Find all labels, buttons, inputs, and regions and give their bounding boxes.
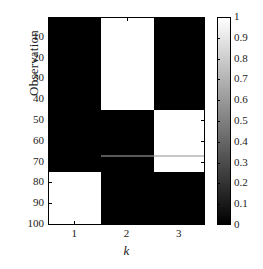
heatmap-block bbox=[154, 157, 205, 172]
heatmap-block bbox=[154, 110, 205, 156]
x-tick-mark bbox=[179, 221, 180, 225]
colorbar-tick-mark bbox=[217, 163, 220, 164]
y-tick-mark bbox=[48, 99, 52, 100]
colorbar-tick-mark bbox=[217, 38, 220, 39]
x-tick-label: 1 bbox=[59, 227, 89, 239]
y-tick-mark bbox=[48, 78, 52, 79]
y-tick-mark bbox=[48, 162, 52, 163]
y-tick-mark bbox=[48, 58, 52, 59]
x-tick-mark-top bbox=[127, 17, 128, 21]
colorbar-tick-mark bbox=[217, 121, 220, 122]
y-tick-mark-right bbox=[201, 120, 205, 121]
y-tick-mark bbox=[48, 224, 52, 225]
y-tick-label: 100 bbox=[4, 217, 44, 229]
colorbar-tick-label: 0 bbox=[234, 218, 240, 230]
y-tick-label: 90 bbox=[4, 196, 44, 208]
heatmap-block bbox=[101, 18, 153, 110]
x-tick-mark bbox=[74, 221, 75, 225]
y-tick-label: 30 bbox=[4, 71, 44, 83]
y-tick-mark-right bbox=[201, 58, 205, 59]
heatmap-axes[interactable] bbox=[48, 17, 205, 225]
heatmap-block bbox=[101, 155, 153, 157]
y-tick-mark-right bbox=[201, 182, 205, 183]
y-tick-mark-right bbox=[201, 99, 205, 100]
colorbar-tick-mark bbox=[217, 204, 220, 205]
y-tick-mark-right bbox=[201, 78, 205, 79]
colorbar-tick-mark bbox=[217, 183, 220, 184]
y-tick-mark bbox=[48, 120, 52, 121]
colorbar-tick-label: 0.8 bbox=[234, 52, 248, 64]
colorbar-tick-label: 0.3 bbox=[234, 156, 248, 168]
y-tick-mark-right bbox=[201, 224, 205, 225]
y-tick-label: 50 bbox=[4, 113, 44, 125]
colorbar-tick-label: 0.4 bbox=[234, 135, 248, 147]
y-tick-mark bbox=[48, 141, 52, 142]
y-tick-mark-right bbox=[201, 203, 205, 204]
y-tick-label: 60 bbox=[4, 134, 44, 146]
x-tick-mark-top bbox=[74, 17, 75, 21]
colorbar-tick-mark bbox=[217, 142, 220, 143]
x-tick-label: 2 bbox=[112, 227, 142, 239]
y-tick-label: 40 bbox=[4, 92, 44, 104]
colorbar-tick-label: 0.5 bbox=[234, 114, 248, 126]
x-axis-label: k bbox=[48, 243, 205, 259]
x-tick-mark-top bbox=[179, 17, 180, 21]
colorbar-tick-mark bbox=[217, 59, 220, 60]
colorbar-tick-label: 0.7 bbox=[234, 72, 248, 84]
colorbar-tick-label: 1 bbox=[234, 10, 240, 22]
y-tick-label: 10 bbox=[4, 30, 44, 42]
y-tick-mark-right bbox=[201, 162, 205, 163]
y-tick-mark bbox=[48, 182, 52, 183]
x-tick-mark bbox=[127, 221, 128, 225]
y-tick-mark bbox=[48, 37, 52, 38]
y-tick-mark bbox=[48, 203, 52, 204]
y-tick-label: 70 bbox=[4, 155, 44, 167]
colorbar-tick-mark bbox=[217, 100, 220, 101]
y-tick-mark-right bbox=[201, 37, 205, 38]
y-tick-mark-right bbox=[201, 141, 205, 142]
colorbar-tick-mark bbox=[217, 79, 220, 80]
heatmap-block bbox=[49, 172, 101, 225]
colorbar-tick-label: 0.6 bbox=[234, 93, 248, 105]
y-tick-label: 80 bbox=[4, 175, 44, 187]
colorbar-tick-label: 0.1 bbox=[234, 197, 248, 209]
figure-canvas: Observation 102030405060708090100 123 k … bbox=[0, 0, 263, 269]
colorbar-tick-label: 0.2 bbox=[234, 176, 248, 188]
y-tick-label: 20 bbox=[4, 51, 44, 63]
colorbar-tick-label: 0.9 bbox=[234, 31, 248, 43]
x-tick-label: 3 bbox=[164, 227, 194, 239]
